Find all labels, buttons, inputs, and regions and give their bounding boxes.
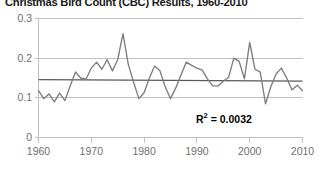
x-axis-tick-label: 1960 — [19, 146, 59, 157]
x-axis-tick-label: 1990 — [177, 146, 217, 157]
r-squared-value: = 0.0032 — [208, 113, 252, 125]
data-series-line — [39, 34, 303, 104]
r-squared-symbol: R — [196, 113, 204, 125]
x-axis-tick-label: 2010 — [283, 146, 323, 157]
y-axis-tick-label: 0.1 — [2, 92, 32, 102]
y-axis-tick-label: 0 — [2, 132, 32, 142]
r-squared-annotation: R2 = 0.0032 — [196, 111, 252, 125]
x-axis-tick-label: 1980 — [124, 146, 164, 157]
y-axis-tick-label: 0.2 — [2, 53, 32, 63]
x-axis-tick-label: 2000 — [230, 146, 270, 157]
chart-container: Christmas Bird Count (CBC) Results, 1960… — [0, 0, 325, 174]
y-axis-tick-label: 0.3 — [2, 13, 32, 23]
x-axis-tick-label: 1970 — [71, 146, 111, 157]
trend-line — [39, 80, 303, 82]
